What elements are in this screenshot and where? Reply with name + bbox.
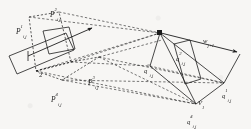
label-p1: P1i,j (16, 21, 27, 37)
label-p4: P4i,j (51, 89, 62, 105)
vertex-markers (157, 30, 162, 35)
label-q1: q1i,j (222, 85, 231, 101)
diagram-svg (0, 0, 251, 129)
label-two: 2 (39, 64, 42, 80)
label-q3: q3i,j (144, 60, 153, 76)
label-v1: V1 (198, 92, 204, 108)
label-w-vector: wj+1 (203, 30, 214, 46)
source-quad-P-dashed (29, 12, 71, 71)
label-p2: P2i,j (50, 4, 61, 20)
label-p3: P3i,j (88, 72, 99, 88)
figure-canvas: P1i,j P2i,j P3i,j P4i,j q1i,j q2i,j q3i,… (0, 0, 251, 129)
label-q2: q2i,j (176, 48, 185, 64)
label-q4: q4i,j (187, 111, 196, 127)
